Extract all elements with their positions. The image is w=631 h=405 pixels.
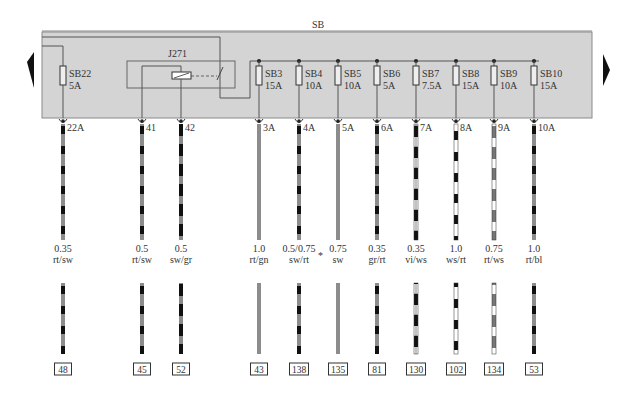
- pin-label: 10A: [538, 122, 556, 133]
- wire-segment: [297, 124, 301, 240]
- wire-note: *: [318, 250, 323, 261]
- wire-5a: 5A0.75sw135: [329, 119, 356, 375]
- wire-size: 0.5/0.75: [283, 243, 316, 254]
- fuse-rating: 10A: [344, 80, 362, 91]
- fuse-rating: 5A: [69, 80, 82, 91]
- pin-label: 42: [185, 122, 195, 133]
- fuse-icon: [491, 66, 497, 85]
- wire-size: 0.75: [329, 243, 347, 254]
- wire-7a: 7A0.35vi/ws130: [405, 119, 433, 375]
- fuse-id: SB6: [383, 68, 400, 79]
- wire-42: 420.5sw/gr52: [170, 119, 195, 375]
- wire-segment: [257, 283, 261, 354]
- fuse-icon: [256, 66, 262, 85]
- ref-number[interactable]: 135: [331, 365, 346, 375]
- wire-segment: [532, 124, 536, 240]
- wire-10a: 10A1.0rt/bl53: [526, 119, 557, 375]
- wire-6a: 6A0.35gr/rt81: [368, 119, 394, 375]
- fuse-rating: 15A: [540, 80, 558, 91]
- wire-size: 1.0: [528, 243, 541, 254]
- wire-segment: [454, 283, 458, 354]
- pin-label: 5A: [342, 122, 355, 133]
- pin-label: 4A: [303, 122, 316, 133]
- wire-41: 410.5rt/sw45: [132, 119, 156, 375]
- wire-color-code: sw: [332, 254, 344, 265]
- wire-segment: [179, 283, 183, 354]
- wire-size: 1.0: [450, 243, 463, 254]
- wire-9a: 9A0.75rt/ws134: [484, 119, 511, 375]
- fuse-id: SB3: [265, 68, 282, 79]
- panel-label: SB: [312, 19, 325, 30]
- ref-number[interactable]: 52: [176, 365, 186, 375]
- wire-size: 0.5: [136, 243, 149, 254]
- wire-segment: [492, 124, 496, 240]
- wire-segment: [336, 283, 340, 354]
- wire-size: 0.35: [54, 243, 72, 254]
- fuse-id: SB8: [462, 68, 479, 79]
- ref-number[interactable]: 134: [487, 365, 502, 375]
- fuse-id: SB5: [344, 68, 361, 79]
- fuse-icon: [453, 66, 459, 85]
- pin-label: 9A: [498, 122, 511, 133]
- wire-segment: [375, 283, 379, 354]
- pin-label: 22A: [67, 122, 85, 133]
- fuse-icon: [60, 66, 66, 85]
- wire-3a: 3A1.0rt/gn43: [250, 119, 276, 375]
- wire-segment: [454, 124, 458, 240]
- wire-color-code: gr/rt: [368, 254, 385, 265]
- wire-segment: [61, 283, 65, 354]
- nav-left-arrow-icon[interactable]: [27, 52, 34, 88]
- fuse-id: SB22: [69, 68, 91, 79]
- wire-segment: [336, 124, 340, 240]
- wire-color-code: sw/gr: [170, 254, 193, 265]
- pin-label: 7A: [420, 122, 433, 133]
- wire-color-code: rt/gn: [250, 254, 269, 265]
- wire-segment: [375, 124, 379, 240]
- pin-label: 6A: [381, 122, 394, 133]
- nav-right-arrow-icon[interactable]: [603, 54, 610, 86]
- fuse-rating: 10A: [500, 80, 518, 91]
- wire-segment: [414, 283, 418, 354]
- ref-number[interactable]: 138: [292, 365, 307, 375]
- fuse-rating: 15A: [462, 80, 480, 91]
- fuse-rating: 15A: [265, 80, 283, 91]
- fuse-id: SB7: [422, 68, 439, 79]
- pin-label: 3A: [263, 122, 276, 133]
- fuse-rating: 7.5A: [422, 80, 443, 91]
- ref-number[interactable]: 48: [58, 365, 68, 375]
- wire-size: 1.0: [253, 243, 266, 254]
- fuse-icon: [374, 66, 380, 85]
- wire-size: 0.35: [407, 243, 425, 254]
- wire-8a: 8A1.0ws/rt102: [446, 119, 473, 375]
- wire-4a: 4A0.5/0.75sw/rt*138: [283, 119, 323, 375]
- wire-segment: [492, 283, 496, 354]
- fuse-icon: [335, 66, 341, 85]
- wire-color-code: rt/ws: [484, 254, 504, 265]
- wire-segment: [414, 124, 418, 240]
- ref-number[interactable]: 53: [529, 365, 539, 375]
- wire-color-code: vi/ws: [405, 254, 427, 265]
- pin-label: 8A: [460, 122, 473, 133]
- wire-segment: [140, 124, 144, 240]
- fuse-icon: [296, 66, 302, 85]
- fuse-id: SB4: [305, 68, 322, 79]
- fuse-rating: 5A: [383, 80, 396, 91]
- wire-size: 0.35: [368, 243, 386, 254]
- fuse-id: SB10: [540, 68, 562, 79]
- ref-number[interactable]: 102: [449, 365, 464, 375]
- wire-segment: [297, 283, 301, 354]
- wire-segment: [140, 283, 144, 354]
- wire-color-code: ws/rt: [446, 254, 466, 265]
- wiring-diagram: SB J271 SB225ASB315ASB410ASB510ASB65ASB7…: [0, 0, 631, 405]
- ref-number[interactable]: 81: [372, 365, 382, 375]
- ref-number[interactable]: 130: [409, 365, 424, 375]
- ref-number[interactable]: 43: [254, 365, 264, 375]
- wire-size: 0.75: [485, 243, 503, 254]
- ref-number[interactable]: 45: [137, 365, 147, 375]
- wire-color-code: rt/sw: [132, 254, 153, 265]
- wire-color-code: rt/bl: [526, 254, 543, 265]
- wire-segment: [179, 124, 183, 240]
- wire-22a: 22A0.35rt/sw48: [53, 119, 85, 375]
- fuse-icon: [531, 66, 537, 85]
- fuse-rating: 10A: [305, 80, 323, 91]
